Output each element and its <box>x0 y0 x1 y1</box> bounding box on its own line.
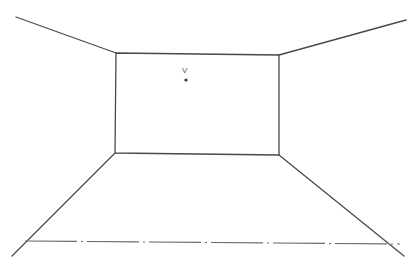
bottom-right-edge <box>279 155 404 256</box>
vanishing-point-label: V <box>182 66 188 75</box>
perspective-diagram: V <box>0 0 417 268</box>
top-right-edge <box>279 20 406 55</box>
vanishing-point-dot <box>184 78 187 81</box>
top-left-edge <box>16 17 116 53</box>
back-wall <box>115 53 279 155</box>
ground-line <box>25 241 400 244</box>
